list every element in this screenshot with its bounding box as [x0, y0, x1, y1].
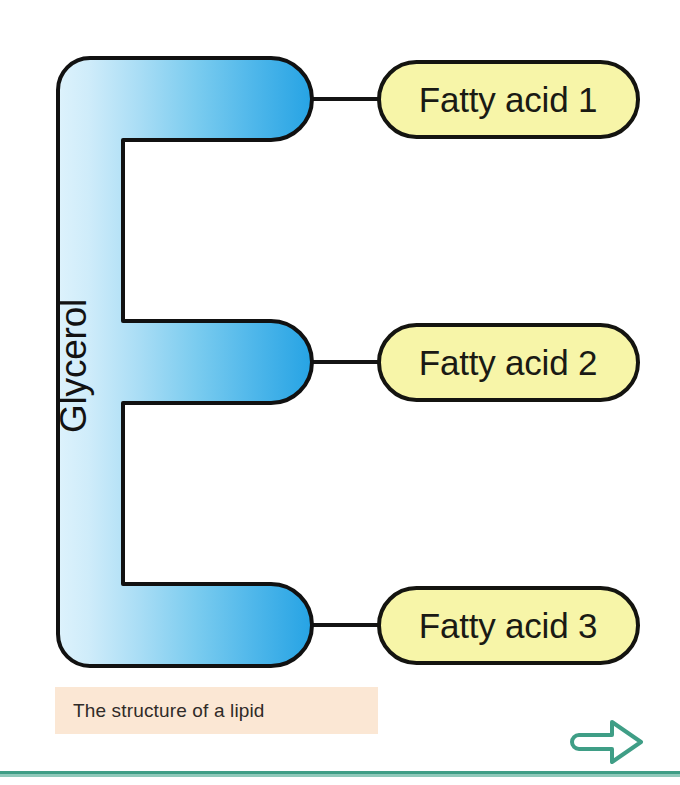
fatty-acid-3[interactable]: Fatty acid 3 — [379, 588, 638, 663]
glycerol-shape — [58, 58, 312, 666]
fatty-acid-1[interactable]: Fatty acid 1 — [379, 62, 638, 137]
fatty-acid-3-label: Fatty acid 3 — [419, 606, 598, 645]
arrow-right-glyph[interactable] — [572, 722, 641, 762]
caption-text: The structure of a lipid — [73, 700, 373, 722]
connector-lines — [308, 99, 382, 625]
fatty-acid-1-label: Fatty acid 1 — [419, 80, 598, 119]
figure-canvas: Glycerol Fatty acid 1 Fatty acid 2 Fatty… — [0, 0, 680, 785]
fatty-acid-2-label: Fatty acid 2 — [419, 343, 598, 382]
fatty-acid-2[interactable]: Fatty acid 2 — [379, 325, 638, 400]
footer-rule — [0, 771, 680, 777]
glycerol-label: Glycerol — [53, 299, 94, 433]
glycerol-backbone: Glycerol — [53, 58, 312, 666]
lipid-structure-figure: Glycerol Fatty acid 1 Fatty acid 2 Fatty… — [0, 0, 680, 785]
arrow-right-icon[interactable] — [570, 716, 650, 768]
